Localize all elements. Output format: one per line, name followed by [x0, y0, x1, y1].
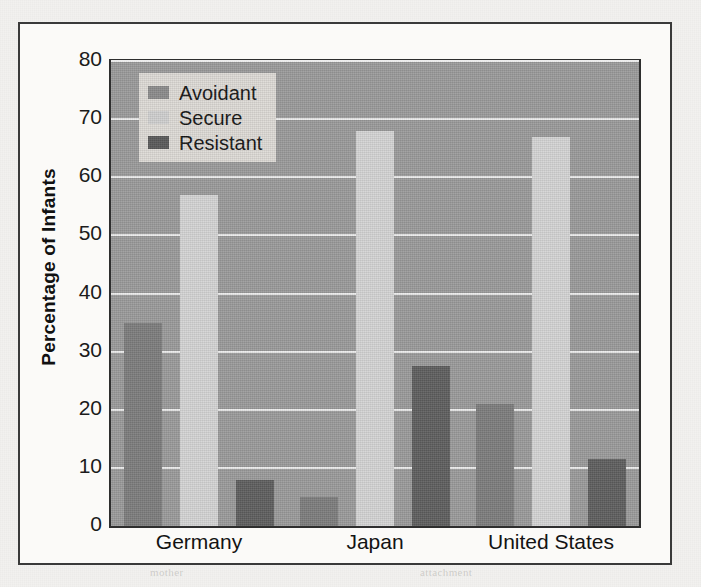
avoidant-swatch: [148, 86, 169, 99]
y-tick-label: 20: [79, 396, 102, 420]
legend-label: Resistant: [179, 133, 262, 153]
y-tick-label: 80: [79, 47, 102, 71]
x-tick-label-japan: Japan: [346, 530, 403, 554]
secure-swatch: [148, 111, 169, 124]
y-tick-label: 10: [79, 454, 102, 478]
plot-area: AvoidantSecureResistant: [109, 59, 641, 528]
bar-secure-japan: [356, 131, 394, 526]
chart-legend: AvoidantSecureResistant: [139, 73, 276, 162]
y-axis-tick-labels: 01020304050607080: [60, 59, 102, 524]
gridline: [111, 60, 639, 62]
x-tick-label-germany: Germany: [156, 530, 242, 554]
bar-secure-germany: [180, 195, 218, 526]
bar-avoidant-germany: [124, 323, 162, 526]
legend-label: Secure: [179, 108, 242, 128]
bar-resistant-germany: [236, 480, 274, 527]
figure-frame: 01020304050607080 Percentage of Infants …: [18, 22, 672, 565]
resistant-swatch: [148, 136, 169, 149]
y-tick-label: 50: [79, 221, 102, 245]
bar-resistant-japan: [412, 366, 450, 526]
ghost-text: mother: [150, 566, 184, 578]
bar-resistant-united-states: [588, 459, 626, 526]
x-axis-tick-labels: GermanyJapanUnited States: [109, 530, 641, 564]
y-axis-label: Percentage of Infants: [38, 102, 60, 432]
x-tick-label-united-states: United States: [488, 530, 614, 554]
bar-secure-united-states: [532, 137, 570, 526]
y-tick-label: 70: [79, 105, 102, 129]
y-tick-label: 40: [79, 280, 102, 304]
legend-item-secure: Secure: [148, 105, 262, 130]
y-tick-label: 30: [79, 338, 102, 362]
y-tick-label: 0: [90, 512, 102, 536]
legend-item-resistant: Resistant: [148, 130, 262, 155]
bar-avoidant-united-states: [476, 404, 514, 526]
y-tick-label: 60: [79, 163, 102, 187]
legend-item-avoidant: Avoidant: [148, 80, 262, 105]
ghost-text: attachment: [420, 566, 472, 578]
legend-label: Avoidant: [179, 83, 256, 103]
bar-avoidant-japan: [300, 497, 338, 526]
